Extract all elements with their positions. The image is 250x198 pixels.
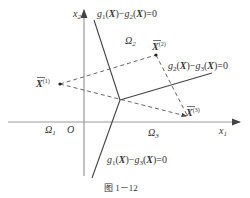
x2-axis-label: x2 — [72, 8, 81, 21]
figure-caption: 图 1－12 — [104, 183, 138, 193]
boundary-g2-g3 — [120, 73, 212, 100]
boundary-g1-g3 — [92, 100, 120, 178]
region-omega1: Ω1 — [45, 124, 56, 137]
boundary-g1-g2 — [94, 20, 120, 100]
x1-axis-label: x1 — [218, 125, 227, 138]
svg-text:X(2): X(2) — [151, 41, 166, 52]
dashed-p1-p3 — [60, 84, 186, 116]
region-omega2: Ω2 — [125, 35, 136, 48]
region-omega3: Ω3 — [148, 127, 159, 140]
point-x1 — [58, 82, 61, 85]
svg-text:X(3): X(3) — [185, 107, 200, 118]
equation-g1-g3: g1(X)−g3(X)=0 — [107, 154, 167, 167]
equation-g2-g3: g2(X)−g3(X)=0 — [168, 60, 228, 73]
label-x3: X(3) — [185, 107, 200, 119]
equation-g1-g2: g1(X)−g2(X)=0 — [97, 8, 157, 21]
origin-label: O — [67, 124, 74, 135]
label-x2: X(2) — [151, 41, 166, 53]
svg-text:X(1): X(1) — [35, 78, 50, 89]
decision-regions-diagram: x2 x1 O Ω1 Ω2 Ω3 X(1) X(2) X(3) g1(X)−g2… — [0, 0, 250, 198]
label-x1: X(1) — [35, 78, 50, 90]
dashed-p1-p2 — [60, 55, 156, 84]
point-x2 — [154, 53, 157, 56]
